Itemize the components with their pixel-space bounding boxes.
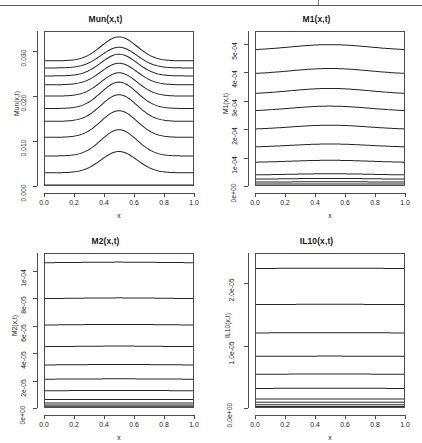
y-tick-label-m1-2: 2e-04 bbox=[211, 124, 243, 134]
x-tick-m1-0 bbox=[255, 193, 256, 197]
y-tick-label-m2-3: 6e-05 bbox=[0, 321, 32, 331]
y-tick-m2-1 bbox=[33, 381, 37, 382]
curve-m1-t7 bbox=[256, 106, 404, 110]
y-tick-label-il10-2: 2.0e-05 bbox=[211, 278, 243, 288]
curve-m1-t3 bbox=[256, 174, 404, 175]
curve-mun-t1 bbox=[45, 152, 193, 173]
x-tick-il10-2 bbox=[315, 415, 316, 419]
x-tick-il10-3 bbox=[345, 415, 346, 419]
x-tick-il10-1 bbox=[285, 415, 286, 419]
y-tick-m2-5 bbox=[33, 271, 37, 272]
y-tick-il10-0 bbox=[244, 408, 248, 409]
y-tick-il10-2 bbox=[244, 283, 248, 284]
x-tick-m1-4 bbox=[375, 193, 376, 197]
plot-area-m2 bbox=[44, 253, 194, 408]
y-tick-mun-2 bbox=[33, 96, 37, 97]
plot-lines-mun bbox=[45, 32, 193, 185]
y-tick-m1-0 bbox=[244, 186, 248, 187]
x-tick-m1-3 bbox=[345, 193, 346, 197]
y-tick-label-m1-0: 0e+00 bbox=[211, 181, 243, 191]
x-tick-label-mun-1: 0.2 bbox=[63, 199, 85, 206]
curve-mun-t7 bbox=[45, 63, 193, 85]
plot-lines-m2 bbox=[45, 254, 193, 407]
x-tick-label-m2-5: 1.0 bbox=[183, 421, 205, 428]
y-tick-label-m1-3: 3e-04 bbox=[211, 96, 243, 106]
y-tick-label-il10-0: 0.0e+00 bbox=[211, 403, 243, 413]
x-tick-label-m2-1: 0.2 bbox=[63, 421, 85, 428]
x-axis-line-m1 bbox=[255, 193, 405, 194]
x-tick-m2-0 bbox=[44, 415, 45, 419]
x-tick-label-mun-0: 0.0 bbox=[33, 199, 55, 206]
curve-mun-t9 bbox=[45, 47, 193, 68]
x-tick-label-il10-3: 0.6 bbox=[334, 421, 356, 428]
y-tick-label-mun-0: 0.000 bbox=[0, 181, 32, 191]
y-axis-title-il10: IL10(x,t) bbox=[215, 314, 229, 332]
plot-area-m1 bbox=[255, 31, 405, 186]
x-tick-label-il10-4: 0.8 bbox=[364, 421, 386, 428]
y-tick-mun-3 bbox=[33, 51, 37, 52]
x-tick-m1-1 bbox=[285, 193, 286, 197]
y-tick-label-il10-1: 1.0e-05 bbox=[211, 341, 243, 351]
page-footer-fragment bbox=[176, 434, 250, 439]
x-tick-label-mun-5: 1.0 bbox=[183, 199, 205, 206]
x-tick-label-m2-3: 0.6 bbox=[123, 421, 145, 428]
curve-m1-t10 bbox=[256, 45, 404, 50]
y-tick-il10-1 bbox=[244, 346, 248, 347]
y-tick-label-mun-1: 0.010 bbox=[0, 136, 32, 146]
x-tick-m2-5 bbox=[194, 415, 195, 419]
x-axis-title-mun: x bbox=[44, 212, 194, 219]
x-tick-label-il10-2: 0.4 bbox=[304, 421, 326, 428]
plot-lines-il10 bbox=[256, 254, 404, 407]
curve-m2-t8 bbox=[45, 324, 193, 325]
x-tick-label-mun-3: 0.6 bbox=[123, 199, 145, 206]
curve-mun-t2 bbox=[45, 130, 193, 156]
x-tick-mun-0 bbox=[44, 193, 45, 197]
panel-m2: M2(x,t) M2(x,t) x 0e+002e-054e-056e-058e… bbox=[0, 222, 211, 443]
curve-m1-t6 bbox=[256, 125, 404, 129]
x-tick-m1-5 bbox=[405, 193, 406, 197]
y-tick-m2-4 bbox=[33, 298, 37, 299]
panel-m1: M1(x,t) M1(x,t) x 0e+001e-042e-043e-044e… bbox=[211, 0, 422, 221]
y-axis-line-m2 bbox=[37, 253, 38, 408]
x-tick-label-il10-5: 1.0 bbox=[394, 421, 416, 428]
panel-title-il10: IL10(x,t) bbox=[211, 236, 422, 246]
y-tick-label-m2-1: 2e-05 bbox=[0, 376, 32, 386]
x-tick-m1-2 bbox=[315, 193, 316, 197]
curve-mun-t3 bbox=[45, 111, 193, 138]
y-tick-label-m2-2: 4e-05 bbox=[0, 348, 32, 358]
x-tick-mun-3 bbox=[134, 193, 135, 197]
plot-area-mun bbox=[44, 31, 194, 186]
x-tick-label-m1-2: 0.4 bbox=[304, 199, 326, 206]
x-tick-label-m2-4: 0.8 bbox=[153, 421, 175, 428]
figure-page: Mun(x,t) Mun(x,t) x 0.0000.0100.0200.030… bbox=[0, 0, 422, 443]
x-tick-label-m1-1: 0.2 bbox=[274, 199, 296, 206]
y-tick-mun-0 bbox=[33, 186, 37, 187]
y-tick-m1-2 bbox=[244, 129, 248, 130]
y-axis-line-mun bbox=[37, 31, 38, 186]
x-axis-title-il10: x bbox=[255, 434, 405, 441]
y-tick-m1-3 bbox=[244, 101, 248, 102]
x-tick-label-m2-0: 0.0 bbox=[33, 421, 55, 428]
panel-title-mun: Mun(x,t) bbox=[0, 14, 211, 24]
panel-title-m2: M2(x,t) bbox=[0, 236, 211, 246]
x-axis-title-m1: x bbox=[255, 212, 405, 219]
curve-mun-t10 bbox=[45, 37, 193, 61]
y-tick-label-m2-4: 8e-05 bbox=[0, 293, 32, 303]
panel-title-m1: M1(x,t) bbox=[211, 14, 422, 24]
x-tick-label-il10-1: 0.2 bbox=[274, 421, 296, 428]
curve-m2-t9 bbox=[45, 298, 193, 299]
y-tick-label-mun-2: 0.020 bbox=[0, 91, 32, 101]
x-tick-m2-4 bbox=[164, 415, 165, 419]
x-tick-mun-5 bbox=[194, 193, 195, 197]
x-tick-m2-3 bbox=[134, 415, 135, 419]
x-axis-line-mun bbox=[44, 193, 194, 194]
curve-m1-t8 bbox=[256, 88, 404, 93]
x-tick-label-m1-4: 0.8 bbox=[364, 199, 386, 206]
panel-il10: IL10(x,t) IL10(x,t) x 0.0e+001.0e-052.0e… bbox=[211, 222, 422, 443]
x-tick-label-mun-2: 0.4 bbox=[93, 199, 115, 206]
x-tick-m2-2 bbox=[104, 415, 105, 419]
y-tick-label-m1-1: 1e-04 bbox=[211, 153, 243, 163]
x-tick-label-m1-3: 0.6 bbox=[334, 199, 356, 206]
y-tick-m2-0 bbox=[33, 408, 37, 409]
x-axis-line-il10 bbox=[255, 415, 405, 416]
